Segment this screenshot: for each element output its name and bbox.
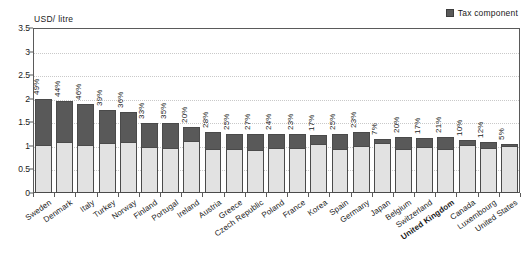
- bar-segment-tax-component[interactable]: [57, 102, 72, 143]
- stacked-bar[interactable]: [459, 140, 476, 193]
- x-axis-tick-mark: [54, 193, 55, 197]
- bar-segment-tax-component[interactable]: [227, 135, 242, 150]
- x-axis-tick-mark: [308, 193, 309, 197]
- stacked-bar[interactable]: [120, 112, 137, 193]
- bar-data-label: 33%: [137, 103, 146, 120]
- stacked-bar[interactable]: [56, 101, 73, 193]
- stacked-bar[interactable]: [374, 139, 391, 193]
- bar-segment-tax-component[interactable]: [460, 141, 475, 146]
- bar-group[interactable]: 44%: [56, 28, 73, 193]
- bar-segment-tax-component[interactable]: [438, 138, 453, 150]
- stacked-bar[interactable]: [416, 138, 433, 193]
- stacked-bar[interactable]: [183, 127, 200, 193]
- bar-group[interactable]: 17%: [416, 28, 433, 193]
- bar-segment-tax-component[interactable]: [100, 111, 115, 144]
- bar-group[interactable]: 5%: [501, 28, 518, 193]
- bar-group[interactable]: 23%: [289, 28, 306, 193]
- x-axis-label: Ireland: [176, 198, 202, 220]
- bar-segment-tax-component[interactable]: [142, 124, 157, 148]
- stacked-bar[interactable]: [205, 132, 222, 193]
- stacked-bar[interactable]: [501, 144, 518, 193]
- stacked-bar[interactable]: [437, 137, 454, 193]
- bar-data-label: 46%: [73, 83, 82, 100]
- x-axis-tick-mark: [224, 193, 225, 197]
- stacked-bar[interactable]: [480, 142, 497, 193]
- x-axis-tick-mark: [329, 193, 330, 197]
- stacked-bar[interactable]: [141, 123, 158, 193]
- bar-data-label: 28%: [200, 112, 209, 129]
- stacked-bar[interactable]: [35, 99, 52, 193]
- bar-segment-tax-component[interactable]: [290, 135, 305, 149]
- bar-group[interactable]: 39%: [99, 28, 116, 193]
- bar-data-label: 27%: [243, 113, 252, 130]
- bar-group[interactable]: 49%: [35, 28, 52, 193]
- x-axis-tick-mark: [160, 193, 161, 197]
- y-axis: 00.511.522.533.5: [0, 0, 33, 263]
- bar-group[interactable]: 23%: [353, 28, 370, 193]
- legend-swatch-tax-component: [446, 9, 454, 17]
- bar-segment-tax-component[interactable]: [163, 124, 178, 149]
- x-axis-labels: SwedenDenmarkItalyTurkeyNorwayFinlandPor…: [33, 198, 526, 263]
- stacked-bar[interactable]: [332, 134, 349, 193]
- bar-segment-tax-component[interactable]: [417, 139, 432, 148]
- bar-segment-tax-component[interactable]: [78, 105, 93, 146]
- bar-group[interactable]: 27%: [247, 28, 264, 193]
- bar-group[interactable]: 24%: [268, 28, 285, 193]
- x-axis-tick-mark: [33, 193, 34, 197]
- bar-segment-tax-component[interactable]: [502, 145, 517, 147]
- chart-container: Tax component USD/ litre 00.511.522.533.…: [0, 0, 526, 263]
- y-axis-title: USD/ litre: [34, 14, 73, 24]
- bar-group[interactable]: 25%: [226, 28, 243, 193]
- bar-data-label: 10%: [455, 120, 464, 137]
- stacked-bar[interactable]: [310, 135, 327, 193]
- x-axis-tick-mark: [372, 193, 373, 197]
- bar-data-label: 23%: [349, 111, 358, 128]
- bar-group[interactable]: 28%: [205, 28, 222, 193]
- bar-segment-tax-component[interactable]: [121, 113, 136, 143]
- stacked-bar[interactable]: [99, 110, 116, 193]
- stacked-bar[interactable]: [77, 104, 94, 193]
- bar-group[interactable]: 12%: [480, 28, 497, 193]
- bar-group[interactable]: 7%: [374, 28, 391, 193]
- bar-group[interactable]: 36%: [120, 28, 137, 193]
- bar-group[interactable]: 21%: [437, 28, 454, 193]
- bar-group[interactable]: 20%: [183, 28, 200, 193]
- legend-label-tax-component: Tax component: [458, 8, 518, 18]
- bar-segment-tax-component[interactable]: [354, 133, 369, 147]
- stacked-bar[interactable]: [395, 137, 412, 193]
- bar-data-label: 5%: [497, 128, 506, 140]
- stacked-bar[interactable]: [247, 134, 264, 193]
- bar-segment-tax-component[interactable]: [248, 135, 263, 151]
- x-axis-tick-mark: [287, 193, 288, 197]
- bar-segment-tax-component[interactable]: [375, 140, 390, 144]
- x-axis-tick-mark: [139, 193, 140, 197]
- bar-segment-tax-component[interactable]: [311, 136, 326, 146]
- cropped-title-artifact: [0, 0, 526, 6]
- x-axis-tick-mark: [520, 193, 521, 197]
- bar-group[interactable]: 33%: [141, 28, 158, 193]
- bar-data-label: 21%: [433, 116, 442, 133]
- bar-group[interactable]: 20%: [395, 28, 412, 193]
- bar-group[interactable]: 35%: [162, 28, 179, 193]
- bar-group[interactable]: 25%: [332, 28, 349, 193]
- stacked-bar[interactable]: [353, 132, 370, 193]
- bar-group[interactable]: 17%: [310, 28, 327, 193]
- bar-group[interactable]: 10%: [459, 28, 476, 193]
- bar-data-label: 49%: [31, 78, 40, 95]
- bar-segment-tax-component[interactable]: [269, 135, 284, 149]
- x-axis-tick-mark: [351, 193, 352, 197]
- bar-data-label: 36%: [116, 91, 125, 108]
- bar-segment-tax-component[interactable]: [481, 143, 496, 149]
- bar-group[interactable]: 46%: [77, 28, 94, 193]
- stacked-bar[interactable]: [162, 123, 179, 193]
- stacked-bar[interactable]: [268, 134, 285, 193]
- bar-segment-tax-component[interactable]: [396, 138, 411, 149]
- bar-segment-tax-component[interactable]: [36, 100, 51, 146]
- stacked-bar[interactable]: [289, 134, 306, 193]
- bar-data-label: 39%: [95, 89, 104, 106]
- stacked-bar[interactable]: [226, 134, 243, 193]
- bar-segment-tax-component[interactable]: [333, 135, 348, 150]
- bar-segment-tax-component[interactable]: [184, 128, 199, 142]
- bar-data-label: 17%: [412, 117, 421, 134]
- bar-segment-tax-component[interactable]: [206, 133, 221, 150]
